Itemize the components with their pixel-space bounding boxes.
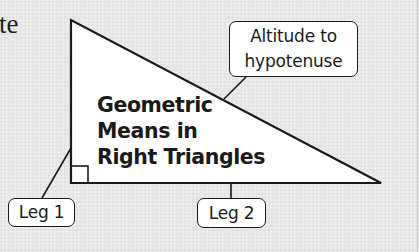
leg1-callout: Leg 1: [8, 198, 75, 227]
altitude-callout: Altitude to hypotenuse: [229, 21, 358, 77]
altitude-callout-line-2: hypotenuse: [230, 49, 357, 74]
title-line-2: Means in: [97, 118, 265, 144]
altitude-callout-line-1: Altitude to: [230, 24, 357, 49]
title-line-3: Right Triangles: [97, 144, 265, 170]
diagram-title: Geometric Means in Right Triangles: [97, 92, 265, 170]
leg1-connector: [42, 148, 71, 198]
title-line-1: Geometric: [97, 92, 265, 118]
leg2-callout: Leg 2: [197, 198, 266, 228]
